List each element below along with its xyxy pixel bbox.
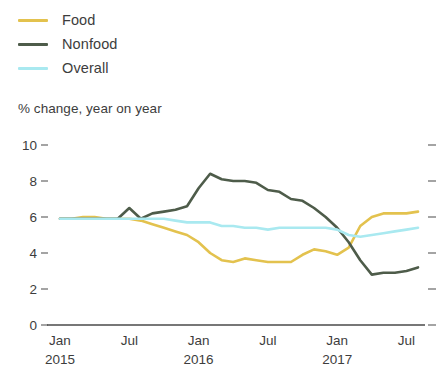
x-tick-sublabel-0: 2015 [45, 352, 75, 367]
y-tick-label-10: 10 [22, 138, 37, 153]
chart-container: Food Nonfood Overall % change, year on y… [0, 0, 442, 372]
x-tick-label-1: Jul [121, 333, 138, 348]
right-axis-ticks [428, 145, 436, 325]
series-lines [60, 174, 418, 275]
y-tick-label-6: 6 [29, 210, 37, 225]
x-tick-label-5: Jul [398, 333, 415, 348]
plot-area: 0246810 Jan2015JulJan2016JulJan2017Jul [0, 0, 442, 372]
x-tick-sublabel-4: 2017 [322, 352, 352, 367]
y-tick-label-8: 8 [29, 174, 37, 189]
x-axis-tick-labels: Jan2015JulJan2016JulJan2017Jul [45, 333, 415, 367]
y-axis-ticks [41, 145, 48, 325]
x-tick-label-2: Jan [188, 333, 210, 348]
y-tick-label-2: 2 [29, 282, 37, 297]
y-tick-label-4: 4 [29, 246, 37, 261]
y-tick-label-0: 0 [29, 318, 37, 333]
x-tick-sublabel-2: 2016 [184, 352, 214, 367]
chart-svg: 0246810 Jan2015JulJan2016JulJan2017Jul [0, 0, 442, 372]
x-tick-label-3: Jul [259, 333, 276, 348]
y-axis-tick-labels: 0246810 [22, 138, 38, 333]
x-tick-label-4: Jan [326, 333, 348, 348]
x-tick-label-0: Jan [49, 333, 71, 348]
